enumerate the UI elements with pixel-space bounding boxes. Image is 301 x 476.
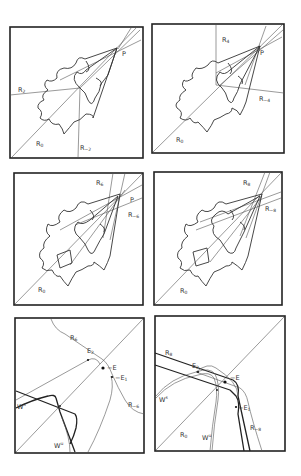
panel-f: R8 E2 −E −E1 Ws R0 Wu R−8 [155, 316, 285, 451]
e2-line [16, 360, 88, 400]
panel-e: R6 E2 −E −E1 R−6 Ws Wu [15, 318, 144, 453]
label-r-2: R−2 [80, 144, 91, 152]
wavy-curve-inner [74, 48, 117, 104]
r0-line [153, 25, 282, 152]
label-r6: R6 [96, 179, 104, 187]
label-e: −E [107, 364, 117, 372]
figure-canvas: R2 R0 R−2 P R4 P R−4 R0 [0, 0, 301, 476]
label-r0: R0 [180, 287, 188, 295]
panel-c: R6 P R−6 R0 [14, 173, 143, 305]
point-e1 [111, 376, 113, 378]
panel-d: R8 R−8 R0 [154, 172, 282, 305]
label-r-6: R−6 [128, 211, 139, 219]
label-ws: Ws [17, 402, 26, 411]
label-r8: R8 [165, 349, 173, 357]
point-e2 [197, 371, 199, 373]
r0-line [16, 319, 143, 452]
label-wu: Wu [202, 433, 211, 442]
e1-curve [88, 376, 112, 452]
label-e2: E2 [87, 347, 94, 355]
label-r4: R4 [222, 36, 230, 44]
label-r2: R2 [18, 86, 26, 94]
label-p: P [122, 50, 126, 58]
point-e [223, 380, 226, 383]
label-wu: Wu [54, 441, 63, 450]
label-e1: −E1 [115, 374, 128, 382]
label-r8: R8 [243, 179, 251, 187]
point-e [101, 366, 104, 369]
label-r0: R0 [180, 431, 188, 439]
label-r0: R0 [36, 140, 44, 148]
r0-line [156, 317, 284, 450]
label-p: P [130, 196, 134, 204]
point-inner [216, 389, 218, 391]
point-ws-wu [59, 405, 61, 407]
r0-line [15, 174, 142, 304]
label-e: −E [230, 374, 240, 382]
label-ws: Ws [159, 395, 168, 404]
label-r6: R6 [70, 334, 78, 342]
label-e2: E2 [192, 362, 199, 370]
r0-line [12, 27, 137, 157]
label-r-8: R−8 [265, 205, 276, 213]
panel-a: R2 R0 R−2 P [10, 27, 143, 158]
label-r0: R0 [38, 286, 46, 294]
label-r0: R0 [176, 136, 184, 144]
label-r-6: R−6 [128, 401, 139, 409]
label-r-4: R−4 [259, 95, 270, 103]
point-e2 [87, 359, 89, 361]
wavy-curve-inner [211, 196, 260, 253]
panel-b: R4 P R−4 R0 [152, 24, 284, 153]
label-r-8: R−8 [250, 424, 261, 432]
point-e1 [235, 406, 237, 408]
label-p: P [260, 49, 264, 57]
